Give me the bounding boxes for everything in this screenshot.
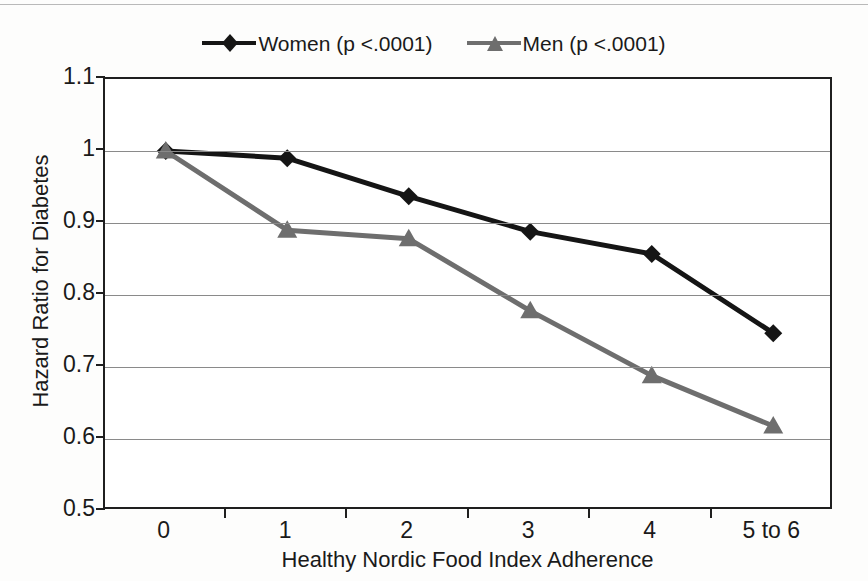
y-tick-mark	[96, 364, 105, 366]
x-tick-label: 2	[346, 518, 468, 543]
x-tick-mark	[588, 509, 590, 518]
x-tick-mark	[224, 509, 226, 518]
x-tick-label: 1	[225, 518, 347, 543]
x-tick-mark	[710, 509, 712, 518]
data-point-diamond	[400, 187, 418, 205]
diamond-marker-icon	[221, 33, 239, 53]
y-tick-label: 0.6	[9, 425, 95, 448]
gridline	[105, 151, 830, 152]
y-tick-label: 0.9	[9, 209, 95, 232]
chart-legend: Women (p <.0001) Men (p <.0001)	[0, 26, 868, 60]
y-tick-mark	[96, 436, 105, 438]
legend-swatch-women	[202, 33, 256, 53]
gridline	[105, 295, 830, 296]
y-tick-mark	[96, 292, 105, 294]
legend-entry-women: Women (p <.0001)	[202, 33, 432, 54]
y-tick-label: 0.8	[9, 281, 95, 304]
series-line-men	[166, 151, 774, 426]
y-tick-mark	[96, 508, 105, 510]
chart-figure: Women (p <.0001) Men (p <.0001) Hazard R…	[0, 0, 868, 581]
y-tick-label: 0.7	[9, 353, 95, 376]
y-tick-label: 0.5	[9, 497, 95, 520]
legend-label-men: Men (p <.0001)	[523, 33, 666, 54]
series-line-women	[166, 151, 774, 333]
gridline	[105, 223, 830, 224]
y-tick-mark	[96, 76, 105, 78]
x-tick-label: 0	[103, 518, 225, 543]
page-top-rule	[0, 4, 868, 5]
y-axis: Hazard Ratio for Diabetes 0.50.60.70.80.…	[0, 0, 95, 581]
data-point-diamond	[278, 149, 296, 167]
y-tick-mark	[96, 220, 105, 222]
y-tick-label: 1.1	[9, 65, 95, 88]
triangle-marker-icon	[486, 33, 504, 53]
x-tick-mark	[345, 509, 347, 518]
data-point-diamond	[521, 223, 539, 241]
legend-swatch-men	[467, 33, 521, 53]
y-tick-label: 1	[9, 137, 95, 160]
y-tick-mark	[96, 148, 105, 150]
plot-area	[103, 77, 832, 509]
x-tick-label: 3	[468, 518, 590, 543]
legend-entry-men: Men (p <.0001)	[467, 33, 666, 54]
x-tick-label: 4	[589, 518, 711, 543]
gridline	[105, 367, 830, 368]
x-tick-mark	[467, 509, 469, 518]
x-tick-label: 5 to 6	[711, 518, 833, 543]
gridline	[105, 439, 830, 440]
x-axis-title: Healthy Nordic Food Index Adherence	[103, 549, 832, 571]
legend-label-women: Women (p <.0001)	[258, 33, 432, 54]
